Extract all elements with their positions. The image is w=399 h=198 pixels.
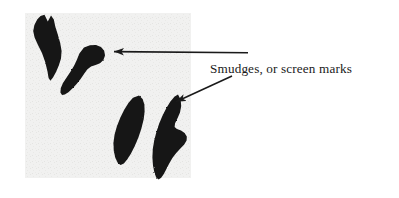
figure-container: Smudges, or screen marks [0,0,399,198]
annotation-caption: Smudges, or screen marks [210,61,352,76]
illustration-canvas: Smudges, or screen marks [0,0,399,198]
